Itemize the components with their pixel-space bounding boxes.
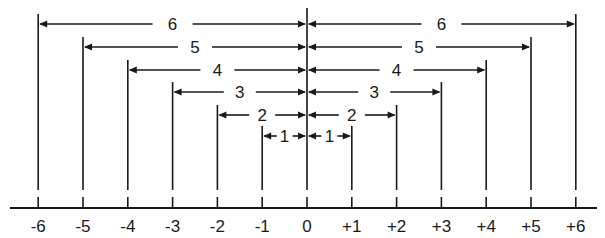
axis-tick-label: +6 (566, 217, 585, 236)
arrow-right-icon (298, 21, 306, 28)
axis-tick-label: 0 (302, 217, 311, 236)
dim-3-left-label: 3 (235, 83, 244, 102)
arrow-right-icon (298, 133, 306, 140)
arrow-left-icon (39, 21, 47, 28)
arrow-left-icon (308, 89, 316, 96)
dim-6-left-label: 6 (168, 15, 177, 34)
axis-tick-label: -6 (31, 217, 46, 236)
arrow-right-icon (298, 44, 306, 51)
axis-tick-label: +1 (342, 217, 361, 236)
dim-6-right-label: 6 (437, 15, 446, 34)
dim-5-right-label: 5 (414, 38, 423, 57)
arrow-right-icon (388, 112, 396, 119)
arrow-left-icon (174, 89, 182, 96)
arrow-left-icon (308, 112, 316, 119)
arrow-right-icon (298, 67, 306, 74)
axis-tick-label: -4 (120, 217, 135, 236)
arrow-left-icon (308, 44, 316, 51)
arrow-right-icon (567, 21, 575, 28)
arrow-right-icon (298, 112, 306, 119)
arrow-left-icon (84, 44, 92, 51)
axis-tick-label: +2 (387, 217, 406, 236)
dim-3-right-label: 3 (369, 83, 378, 102)
arrow-left-icon (308, 21, 316, 28)
number-line-diagram: 665544332211 -6-5-4-3-2-10+1+2+3+4+5+6 (0, 0, 605, 238)
axis-tick-label: +3 (432, 217, 451, 236)
dim-2-right-label: 2 (347, 106, 356, 125)
axis-tick-label: -3 (165, 217, 180, 236)
arrow-right-icon (343, 133, 351, 140)
axis-tick-label: +4 (477, 217, 496, 236)
axis-tick-label: -2 (210, 217, 225, 236)
dim-4-left-label: 4 (213, 61, 222, 80)
dim-4-right-label: 4 (392, 61, 401, 80)
axis-tick-label: -1 (255, 217, 270, 236)
arrow-right-icon (477, 67, 485, 74)
arrow-left-icon (263, 133, 271, 140)
arrow-left-icon (218, 112, 226, 119)
arrow-right-icon (522, 44, 530, 51)
arrow-right-icon (298, 89, 306, 96)
extension-lines (38, 8, 576, 190)
axis-tick-label: +5 (521, 217, 540, 236)
dim-1-left-label: 1 (280, 127, 289, 146)
dim-5-left-label: 5 (190, 38, 199, 57)
arrow-left-icon (308, 67, 316, 74)
arrow-left-icon (308, 133, 316, 140)
axis-ticks: -6-5-4-3-2-10+1+2+3+4+5+6 (31, 197, 586, 236)
axis-tick-label: -5 (75, 217, 90, 236)
dim-2-left-label: 2 (257, 106, 266, 125)
arrow-left-icon (129, 67, 137, 74)
arrow-right-icon (432, 89, 440, 96)
dim-1-right-label: 1 (325, 127, 334, 146)
